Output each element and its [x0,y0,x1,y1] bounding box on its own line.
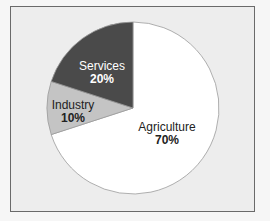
slice-label-industry: Industry 10% [52,99,95,125]
slice-label-services: Services 20% [79,60,125,86]
slice-percent: 70% [138,134,195,147]
slice-name: Agriculture [138,120,195,134]
slice-percent: 10% [52,112,95,125]
slice-label-agriculture: Agriculture 70% [138,121,195,147]
slice-name: Industry [52,98,95,112]
slice-name: Services [79,59,125,73]
pie-chart [0,0,270,221]
slice-percent: 20% [79,73,125,86]
